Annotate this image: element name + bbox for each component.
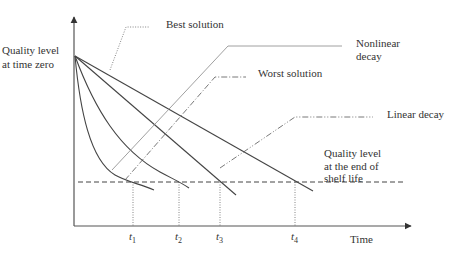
time-drop-lines bbox=[133, 182, 295, 226]
curve-2 bbox=[75, 56, 189, 188]
shelf-life-label-line1: Quality level bbox=[324, 147, 381, 159]
worst-solution-label: Worst solution bbox=[258, 67, 323, 79]
time-tick-labels: t1 t2 t3 t4 bbox=[129, 230, 298, 245]
quality-at-time-zero-label-line2: at time zero bbox=[2, 58, 54, 70]
t1-label: t1 bbox=[129, 230, 136, 245]
best-solution-label: Best solution bbox=[166, 18, 224, 30]
shelf-life-label-line2: at the end of bbox=[324, 160, 379, 172]
linear-decay-label: Linear decay bbox=[387, 108, 445, 120]
shelf-life-label-line3: shelf life bbox=[324, 172, 363, 184]
nonlinear-decay-leader bbox=[112, 46, 342, 170]
nonlinear-decay-label-line1: Nonlinear bbox=[356, 37, 400, 49]
best-solution-leader bbox=[110, 27, 150, 70]
shelf-life-quality-diagram: Quality level at time zero Best solution… bbox=[0, 0, 456, 260]
labels: Quality level at time zero Best solution… bbox=[2, 18, 445, 245]
curve-3 bbox=[75, 56, 236, 195]
nonlinear-decay-label-line2: decay bbox=[356, 50, 382, 62]
t3-label: t3 bbox=[216, 230, 223, 245]
curve-1-steepest bbox=[75, 56, 154, 190]
quality-at-time-zero-label-line1: Quality level bbox=[2, 44, 59, 56]
t4-label: t4 bbox=[291, 230, 298, 245]
t2-label: t2 bbox=[175, 230, 182, 245]
worst-solution-leader bbox=[125, 77, 246, 180]
time-axis-label: Time bbox=[350, 233, 373, 245]
